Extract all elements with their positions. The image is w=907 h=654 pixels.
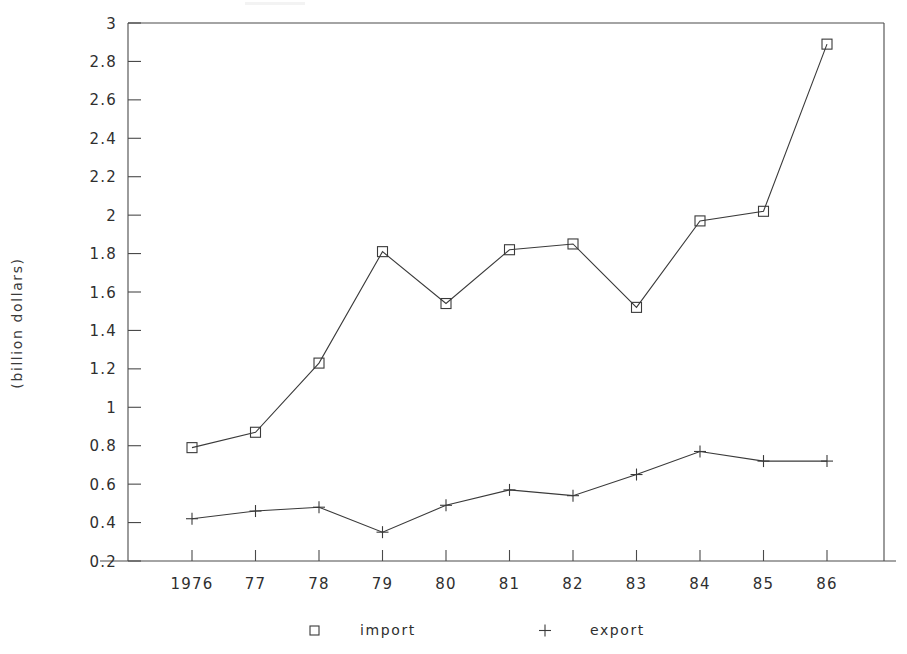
y-tick-label: 2.2	[90, 168, 117, 186]
legend-label: import	[360, 622, 416, 638]
data-series-layer	[186, 39, 833, 538]
chart-legend: importexport	[310, 622, 645, 638]
x-axis-ticks: 197677787980818283848586	[171, 550, 838, 593]
y-axis-title: (billion dollars)	[9, 257, 25, 388]
y-tick-label: 2.8	[90, 53, 117, 71]
line-chart-plot: 0.20.40.60.811.21.41.61.822.22.42.62.83 …	[0, 0, 907, 654]
y-tick-label: 1.6	[90, 284, 117, 302]
x-tick-label: 1976	[171, 575, 214, 593]
y-tick-label: 1.4	[90, 322, 117, 340]
x-tick-label: 81	[499, 575, 521, 593]
y-axis-ticks: 0.20.40.60.811.21.41.61.822.22.42.62.83	[90, 15, 141, 571]
y-tick-label: 3	[106, 15, 117, 33]
y-tick-label: 0.4	[90, 514, 117, 532]
x-tick-label: 82	[562, 575, 584, 593]
x-tick-label: 86	[816, 575, 838, 593]
x-tick-label: 83	[626, 575, 648, 593]
y-tick-label: 0.6	[90, 476, 117, 494]
x-tick-label: 78	[308, 575, 330, 593]
y-tick-label: 0.2	[90, 553, 117, 571]
x-tick-label: 77	[245, 575, 267, 593]
legend-entry-import: import	[310, 622, 416, 638]
y-tick-label: 1	[106, 399, 117, 417]
legend-marker-square	[310, 626, 319, 635]
x-tick-label: 85	[753, 575, 775, 593]
x-tick-label: 79	[372, 575, 394, 593]
chart-container: 0.20.40.60.811.21.41.61.822.22.42.62.83 …	[0, 0, 907, 654]
series-line-import	[192, 44, 827, 448]
legend-label: export	[590, 622, 645, 638]
y-tick-label: 2	[106, 207, 117, 225]
y-tick-label: 0.8	[90, 437, 117, 455]
plot-frame	[100, 23, 896, 561]
y-tick-label: 1.8	[90, 245, 117, 263]
x-tick-label: 84	[689, 575, 711, 593]
series-import	[187, 39, 832, 453]
series-export	[186, 445, 833, 538]
legend-entry-export: export	[539, 622, 645, 638]
x-tick-label: 80	[435, 575, 457, 593]
y-tick-label: 2.4	[90, 130, 117, 148]
y-tick-label: 2.6	[90, 91, 117, 109]
y-tick-label: 1.2	[90, 360, 117, 378]
